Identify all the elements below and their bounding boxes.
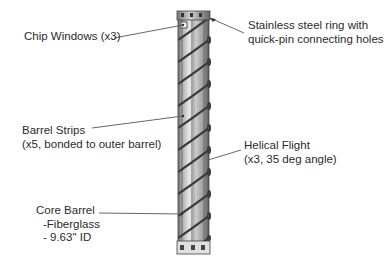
leader-stainless-ring	[210, 18, 244, 33]
label-barrel-strips: Barrel Strips (x5, bonded to outer barre…	[22, 124, 161, 151]
leader-chip-windows	[114, 25, 183, 38]
stainless-steel-ring-top	[177, 11, 210, 20]
core-barrel-body	[178, 14, 211, 258]
leader-core-barrel	[99, 213, 182, 214]
leader-helical-flight	[208, 150, 241, 160]
leader-lines	[92, 18, 244, 214]
label-stainless-ring: Stainless steel ring with quick-pin conn…	[248, 19, 384, 46]
label-line: quick-pin connecting holes	[248, 33, 384, 47]
label-line: Stainless steel ring with	[248, 19, 384, 33]
label-line: -Fiberglass	[36, 218, 100, 232]
core-barrel-diagram: Chip Windows (x3) Stainless steel ring w…	[0, 0, 387, 269]
label-line: (x5, bonded to outer barrel)	[22, 138, 161, 152]
label-core-barrel: Core Barrel -Fiberglass - 9.63" ID	[36, 204, 100, 245]
label-line: Helical Flight	[244, 139, 337, 153]
label-chip-windows: Chip Windows (x3)	[24, 30, 121, 44]
label-line: Chip Windows (x3)	[24, 30, 121, 44]
label-line: Core Barrel	[36, 204, 100, 218]
label-helical-flight: Helical Flight (x3, 35 deg angle)	[244, 139, 337, 166]
label-line: - 9.63" ID	[36, 231, 100, 245]
label-line: Barrel Strips	[22, 124, 161, 138]
label-line: (x3, 35 deg angle)	[244, 153, 337, 167]
stainless-steel-ring-bottom	[177, 241, 210, 254]
